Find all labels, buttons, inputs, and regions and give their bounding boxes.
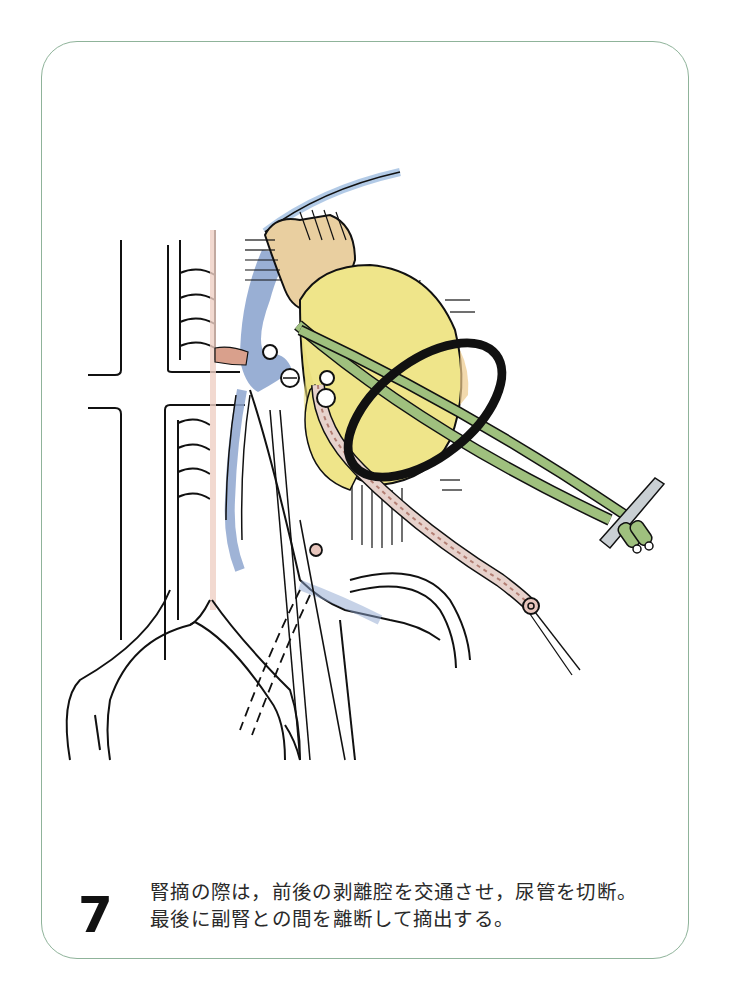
figure-number: 7 [78, 890, 150, 940]
vessel-clip [310, 544, 322, 556]
figure-caption: 7 腎摘の際は，前後の剥離腔を交通させ，尿管を切断。 最後に副腎との間を離断して… [78, 866, 678, 946]
renal-vein [226, 250, 292, 570]
renal-artery [215, 347, 248, 365]
iliac-vessels [67, 590, 300, 760]
caption-line-1: 腎摘の際は，前後の剥離腔を交通させ，尿管を切断。 [150, 879, 637, 906]
suture-thread [535, 612, 580, 670]
spine-outline [88, 230, 245, 660]
ureter-clip [523, 598, 539, 614]
caption-line-2: 最後に副腎との間を離断して摘出する。 [150, 906, 637, 933]
aorta-tint [210, 230, 216, 610]
caption-text: 腎摘の際は，前後の剥離腔を交通させ，尿管を切断。 最後に副腎との間を離断して摘出… [150, 879, 637, 933]
surgical-illustration [0, 0, 731, 1000]
ureter-dashed [240, 590, 310, 735]
colon-arc [350, 573, 470, 668]
